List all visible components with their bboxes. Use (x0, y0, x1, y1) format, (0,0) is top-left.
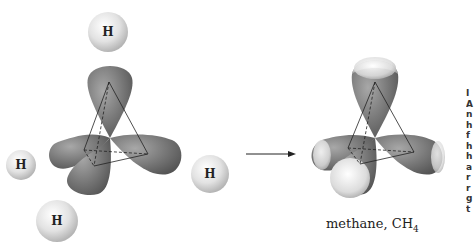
margin-char: n (466, 109, 476, 120)
margin-char: h (466, 151, 476, 162)
margin-char: h (466, 141, 476, 152)
orbital-lobe-top (87, 66, 132, 138)
svg-text:H: H (51, 214, 62, 228)
margin-char: t (466, 204, 476, 215)
hydrogen-atom: H (191, 155, 229, 193)
hydrogen-atom: H (36, 200, 78, 242)
caption-text: methane, CH (326, 216, 413, 231)
margin-char: I (466, 88, 476, 99)
margin-char: f (466, 130, 476, 141)
reaction-arrow-icon (246, 151, 296, 157)
hydrogen-atom: H (6, 150, 36, 180)
svg-text:H: H (204, 167, 215, 181)
h-cap-front (330, 158, 370, 198)
caption-subscript: 4 (413, 224, 419, 234)
hydrogen-atom: H (88, 12, 128, 52)
margin-char: h (466, 120, 476, 131)
hybridization-diagram: H H H H (0, 0, 476, 250)
sp3-carbon-orbitals (49, 66, 181, 195)
margin-char: g (466, 193, 476, 204)
methane-caption: methane, CH4 (326, 216, 419, 234)
methane-molecule (312, 57, 446, 198)
margin-char: a (466, 162, 476, 173)
margin-char: r (466, 183, 476, 194)
h-cap-right (431, 141, 445, 173)
margin-char: A (466, 99, 476, 110)
margin-char: r (466, 172, 476, 183)
svg-text:H: H (102, 25, 113, 39)
svg-text:H: H (15, 158, 26, 172)
h-cap-left (313, 140, 331, 170)
clipped-margin-text: I A n h f h h a r r g t (466, 88, 476, 214)
h-cap-top (354, 57, 396, 79)
